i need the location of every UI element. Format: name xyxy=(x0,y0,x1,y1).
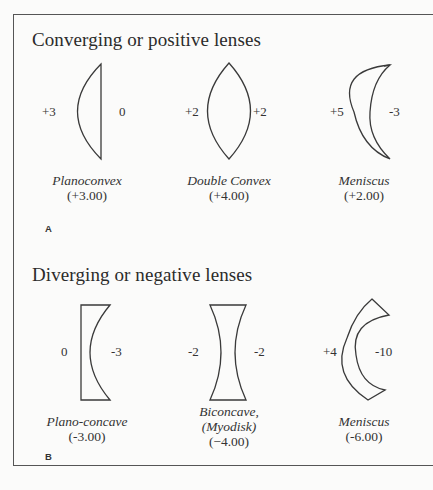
lens-power-right: -3 xyxy=(111,344,122,360)
lens-power-total: (+3.00) xyxy=(67,188,107,204)
biconcave-lens-icon xyxy=(210,305,246,400)
section-title-diverging: Diverging or negative lenses xyxy=(32,264,252,286)
lens-power-total: (+2.00) xyxy=(344,188,384,204)
lens-power-total: (-3.00) xyxy=(68,429,105,445)
lens-power-left: +4 xyxy=(323,344,337,360)
lens-power-total: (−4.00) xyxy=(209,434,249,450)
lens-power-right: -10 xyxy=(375,344,392,360)
positive-meniscus-lens-icon xyxy=(350,65,391,159)
lens-power-right: 0 xyxy=(119,104,126,120)
lens-name-alias: (Myodisk) xyxy=(202,419,257,435)
lens-name: Meniscus xyxy=(339,173,390,189)
lens-power-right: -3 xyxy=(389,104,400,120)
lens-power-right: -2 xyxy=(254,344,265,360)
lens-power-left: 0 xyxy=(61,344,68,360)
lens-power-left: -2 xyxy=(188,344,199,360)
lens-name: Plano-concave xyxy=(47,414,128,430)
panel-label-b: B xyxy=(45,451,52,462)
planoconvex-lens-icon xyxy=(78,64,102,159)
lens-name: Double Convex xyxy=(187,173,271,189)
lens-power-total: (-6.00) xyxy=(345,429,382,445)
lens-power-left: +3 xyxy=(42,104,56,120)
lens-name: Planoconvex xyxy=(52,173,122,189)
lens-name: Meniscus xyxy=(339,414,390,430)
lens-power-right: +2 xyxy=(253,104,267,120)
lens-power-total: (+4.00) xyxy=(209,188,249,204)
lens-power-left: +2 xyxy=(185,104,199,120)
lens-name: Biconcave, xyxy=(199,404,259,420)
lens-power-left: +5 xyxy=(330,104,344,120)
plano-concave-lens-icon xyxy=(81,305,110,400)
panel-label-a: A xyxy=(45,223,52,234)
double-convex-lens-icon xyxy=(208,63,251,159)
